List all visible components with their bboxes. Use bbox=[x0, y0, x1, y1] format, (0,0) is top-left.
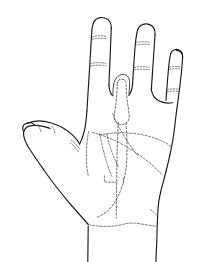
figure-background bbox=[0, 0, 198, 262]
hand-line-drawing bbox=[0, 0, 198, 262]
hand-figure bbox=[0, 0, 198, 262]
